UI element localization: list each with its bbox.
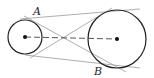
center-line xyxy=(25,37,117,39)
label-a: A xyxy=(32,5,41,18)
large-circle-center xyxy=(115,37,119,41)
internal-tangent-1 xyxy=(24,16,126,72)
label-b: B xyxy=(93,65,102,78)
tangent-circles-diagram: A B xyxy=(0,0,154,78)
small-circle-center xyxy=(23,35,27,39)
external-tangent-bottom xyxy=(25,55,140,68)
